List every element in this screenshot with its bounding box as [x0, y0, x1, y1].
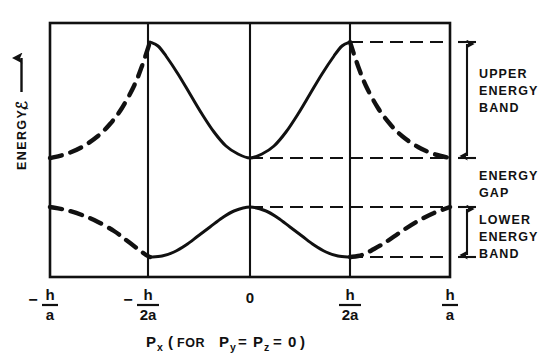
annotation-line: BAND: [479, 247, 520, 261]
caption-paren-open: (: [168, 333, 173, 350]
x-tick-numerator: h: [445, 286, 454, 303]
diagram-canvas: UPPERENERGYBANDENERGYGAPLOWERENERGYBAND …: [0, 0, 557, 362]
band-range-arrows: [458, 42, 476, 257]
band-curve-0-left-dashed: [50, 42, 150, 158]
range-arrow-lower-energy-band: [458, 207, 476, 257]
band-annotations: UPPERENERGYBANDENERGYGAPLOWERENERGYBAND: [479, 67, 538, 261]
x-axis-tick-labels: −ha−h2a0h2aha: [28, 286, 458, 323]
caption-pz-sub: z: [264, 341, 269, 353]
range-arrow-upper-energy-band: [458, 42, 476, 158]
x-tick-3: h2a: [339, 286, 361, 323]
caption-eq1: =: [238, 333, 247, 350]
x-tick-0: −ha: [28, 286, 58, 323]
caption-eq2: =: [273, 333, 282, 350]
x-tick-label: 0: [246, 289, 254, 306]
caption-py-sub: y: [230, 341, 236, 353]
caption-for: FOR: [177, 336, 205, 350]
caption-paren-close: ): [300, 333, 305, 350]
annotation-line: ENERGY: [479, 84, 538, 98]
annotation-line: BAND: [479, 101, 520, 115]
annotation-lower-energy-band: LOWERENERGYBAND: [479, 213, 538, 261]
y-axis-label-text: ENERGY,: [15, 105, 29, 170]
energy-band-diagram: UPPERENERGYBANDENERGYGAPLOWERENERGYBAND …: [0, 0, 557, 362]
x-tick-denominator: 2a: [342, 306, 359, 323]
vertical-gridlines: [148, 23, 350, 277]
x-axis-caption: P x ( FOR P y = P z = 0 ): [146, 333, 305, 353]
x-tick-4: ha: [442, 286, 458, 323]
band-curve-0-right-dashed: [350, 42, 450, 158]
caption-pz: P: [253, 333, 263, 350]
x-tick-denominator: a: [46, 306, 55, 323]
x-tick-denominator: 2a: [140, 306, 157, 323]
x-tick-numerator: h: [143, 286, 152, 303]
x-tick-numerator: h: [45, 286, 54, 303]
y-axis-label: ENERGY, ℰ: [13, 58, 30, 170]
caption-px-sub: x: [157, 341, 163, 353]
x-tick-2: 0: [246, 289, 254, 306]
band-curve-1-left-dashed: [50, 207, 150, 257]
annotation-line: LOWER: [479, 213, 531, 227]
caption-py: P: [219, 333, 229, 350]
x-tick-1: −h2a: [123, 286, 159, 323]
x-tick-sign: −: [28, 291, 37, 308]
annotation-upper-energy-band: UPPERENERGYBAND: [479, 67, 538, 115]
annotation-line: UPPER: [479, 67, 528, 81]
caption-zero: 0: [288, 333, 296, 350]
annotation-line: ENERGY: [479, 169, 538, 183]
band-curve-1-right-dashed: [350, 207, 450, 257]
caption-px: P: [146, 333, 156, 350]
annotation-line: GAP: [479, 186, 509, 200]
x-tick-numerator: h: [345, 286, 354, 303]
x-tick-denominator: a: [446, 306, 455, 323]
x-tick-sign: −: [123, 291, 132, 308]
y-axis-label-symbol: ℰ: [13, 101, 30, 110]
annotation-energy-gap: ENERGYGAP: [479, 169, 538, 200]
annotation-line: ENERGY: [479, 230, 538, 244]
